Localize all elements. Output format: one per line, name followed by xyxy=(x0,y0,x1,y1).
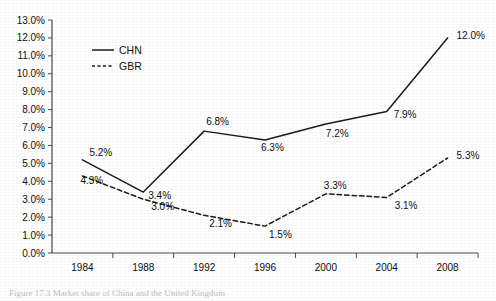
x-axis-tick-label: 1996 xyxy=(254,262,277,273)
figure-container: 0.0%1.0%2.0%3.0%4.0%5.0%6.0%7.0%8.0%9.0%… xyxy=(0,0,496,301)
data-label-gbr-1984: 4.3% xyxy=(80,175,103,186)
x-axis-tick-label: 2004 xyxy=(376,262,399,273)
data-label-gbr-2004: 3.1% xyxy=(395,200,418,211)
y-axis-tick-label: 9.0% xyxy=(22,86,45,97)
data-label-chn-2004: 7.9% xyxy=(394,109,417,120)
x-axis: 1984198819921996200020042008 xyxy=(71,253,459,273)
y-axis-tick-label: 5.0% xyxy=(22,158,45,169)
y-axis-tick-label: 3.0% xyxy=(22,194,45,205)
x-axis-tick-label: 1988 xyxy=(132,262,155,273)
y-axis-tick-label: 1.0% xyxy=(22,230,45,241)
chart-legend: CHNGBR xyxy=(92,44,142,72)
data-label-chn-1996: 6.3% xyxy=(261,142,284,153)
y-axis: 0.0%1.0%2.0%3.0%4.0%5.0%6.0%7.0%8.0%9.0%… xyxy=(17,15,52,259)
y-axis-tick-label: 10.0% xyxy=(17,68,45,79)
data-label-chn-1988: 3.4% xyxy=(148,190,171,201)
data-label-gbr-1992: 2.1% xyxy=(209,218,232,229)
x-axis-tick-label: 1992 xyxy=(193,262,216,273)
data-label-chn-2008: 12.0% xyxy=(457,30,485,41)
y-axis-tick-label: 12.0% xyxy=(17,32,45,43)
data-label-gbr-2000: 3.3% xyxy=(324,180,347,191)
y-axis-tick-label: 0.0% xyxy=(22,248,45,259)
legend-label-chn: CHN xyxy=(119,44,142,56)
figure-caption: Figure 17.3 Market share of China and th… xyxy=(9,288,489,298)
y-axis-tick-label: 11.0% xyxy=(17,50,45,61)
data-label-chn-1984: 5.2% xyxy=(89,147,112,158)
line-chart: 0.0%1.0%2.0%3.0%4.0%5.0%6.0%7.0%8.0%9.0%… xyxy=(0,0,496,301)
legend-label-gbr: GBR xyxy=(119,60,142,72)
x-axis-tick-label: 2000 xyxy=(315,262,338,273)
x-axis-tick-label: 1984 xyxy=(71,262,94,273)
data-label-chn-1992: 6.8% xyxy=(206,116,229,127)
y-axis-tick-label: 4.0% xyxy=(22,176,45,187)
data-label-chn-2000: 7.2% xyxy=(326,128,349,139)
series-line-gbr xyxy=(82,158,447,226)
data-label-gbr-1996: 1.5% xyxy=(269,229,292,240)
y-axis-tick-label: 2.0% xyxy=(22,212,45,223)
x-axis-tick-label: 2008 xyxy=(436,262,459,273)
data-label-gbr-1988: 3.0% xyxy=(151,201,174,212)
data-label-gbr-2008: 5.3% xyxy=(457,150,480,161)
y-axis-tick-label: 7.0% xyxy=(22,122,45,133)
y-axis-tick-label: 8.0% xyxy=(22,104,45,115)
y-axis-tick-label: 13.0% xyxy=(17,15,45,26)
axis-frame xyxy=(52,20,478,258)
y-axis-tick-label: 6.0% xyxy=(22,140,45,151)
